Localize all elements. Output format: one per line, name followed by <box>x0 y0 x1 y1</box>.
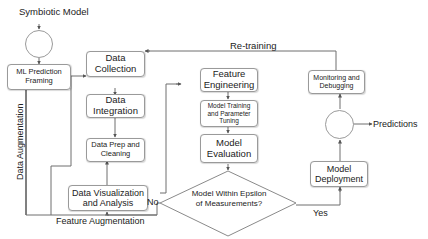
feature-augmentation-label: Feature Augmentation <box>56 216 145 226</box>
symbiotic-model-node <box>25 30 53 58</box>
ml-prediction-framing-box: ML Prediction Framing <box>7 64 71 90</box>
feature-engineering-label: Feature Engineering <box>202 69 256 91</box>
diagram-title: Symbiotic Model <box>19 6 89 17</box>
data-viz-label: Data Visualization and Analysis <box>72 188 144 209</box>
predictions-label: Predictions <box>373 119 418 129</box>
decision-label: Model Within Epsilon of Measurements? <box>191 189 267 209</box>
data-prep-box: Data Prep and Cleaning <box>86 138 145 162</box>
data-integration-label: Data Integration <box>91 95 141 117</box>
model-deployment-box: Model Deployment <box>310 161 368 187</box>
feature-engineering-box: Feature Engineering <box>200 68 258 92</box>
data-prep-label: Data Prep and Cleaning <box>89 141 143 158</box>
model-evaluation-label: Model Evaluation <box>204 138 254 160</box>
monitoring-label: Monitoring and Debugging <box>310 74 364 90</box>
ml-prediction-framing-label: ML Prediction Framing <box>13 68 65 85</box>
model-deployment-label: Model Deployment <box>312 164 366 185</box>
model-evaluation-box: Model Evaluation <box>200 134 258 163</box>
no-label: No <box>147 197 159 207</box>
retraining-label: Re-training <box>230 40 276 51</box>
model-training-box: Model Training and Parameter Tuning <box>200 100 258 127</box>
data-collection-label: Data Collection <box>91 53 141 75</box>
data-collection-box: Data Collection <box>86 51 145 77</box>
data-augmentation-label: Data Augmentation <box>15 103 25 180</box>
data-viz-box: Data Visualization and Analysis <box>68 185 148 211</box>
data-integration-box: Data Integration <box>86 94 145 118</box>
model-training-label: Model Training and Parameter Tuning <box>202 102 256 124</box>
predictions-node <box>325 110 354 139</box>
monitoring-box: Monitoring and Debugging <box>308 70 365 94</box>
yes-label: Yes <box>313 208 328 218</box>
